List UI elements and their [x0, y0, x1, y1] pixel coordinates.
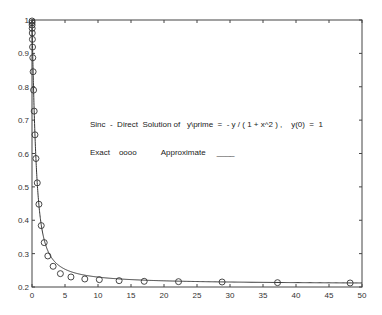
- y-tick-label: 0.5: [18, 183, 30, 192]
- x-tick-label: 10: [94, 291, 103, 300]
- x-tick-label: 0: [30, 291, 35, 300]
- exact-marker: [82, 276, 88, 282]
- y-tick-label: 0.6: [18, 150, 30, 159]
- exact-marker: [68, 274, 74, 280]
- x-tick-label: 25: [193, 291, 202, 300]
- exact-marker: [50, 263, 56, 269]
- y-tick-label: 0.3: [18, 250, 30, 259]
- plot-axes: 051015202530354045500.20.30.40.50.60.70.…: [18, 16, 367, 300]
- chart-annotation-legend: Exact oooo Approximate ____: [90, 148, 235, 157]
- x-tick-label: 45: [325, 291, 334, 300]
- y-tick-label: 0.8: [18, 83, 30, 92]
- x-tick-label: 30: [226, 291, 235, 300]
- x-tick-label: 5: [63, 291, 68, 300]
- x-tick-label: 35: [259, 291, 268, 300]
- chart-annotation-title: Sinc - Direct Solution of y\prime = - y …: [90, 120, 323, 129]
- x-tick-label: 15: [127, 291, 136, 300]
- y-tick-label: 0.7: [18, 116, 30, 125]
- exact-marker: [57, 271, 63, 277]
- exact-marker: [141, 278, 147, 284]
- y-tick-label: 0.4: [18, 216, 30, 225]
- x-tick-label: 50: [358, 291, 367, 300]
- x-tick-label: 40: [292, 291, 301, 300]
- chart: 051015202530354045500.20.30.40.50.60.70.…: [0, 0, 382, 315]
- y-tick-label: 0.2: [18, 283, 30, 292]
- y-tick-label: 0.9: [18, 49, 30, 58]
- x-tick-label: 20: [160, 291, 169, 300]
